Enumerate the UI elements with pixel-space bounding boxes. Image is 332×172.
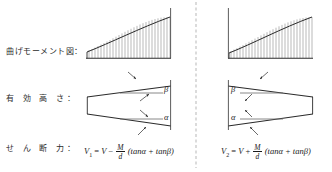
row-label-effective-depth: 有 効 高 さ： bbox=[6, 95, 78, 103]
row-label-bending-moment: 曲げモーメント図： bbox=[6, 48, 83, 56]
formula-left-equals: = bbox=[94, 146, 99, 156]
formula-right-denominator: d bbox=[253, 153, 261, 160]
formula-right-v: V bbox=[238, 146, 243, 156]
row-label-shear-force: せ ん 断 力： bbox=[6, 145, 78, 153]
right-panel bbox=[228, 8, 313, 135]
formula-right-equals: = bbox=[231, 146, 236, 156]
formula-left-numerator: M bbox=[116, 144, 124, 151]
formula-right-numerator: M bbox=[253, 144, 261, 151]
effective-depth-right bbox=[228, 72, 313, 135]
shear-formula-right: V2 = V + M d (tanα + tanβ) bbox=[221, 144, 311, 160]
shear-formula-left: V1 = V − M d (tanα + tanβ) bbox=[84, 144, 174, 160]
diagram-figure: β α β α 曲げモーメント図： 有 効 高 さ： せ ん 断 力： V1 =… bbox=[0, 0, 332, 172]
bmd-left bbox=[86, 8, 171, 58]
angle-label-alpha-left: α bbox=[164, 112, 169, 122]
formula-left-v: V bbox=[101, 146, 106, 156]
angle-label-alpha-right: α bbox=[231, 112, 236, 122]
formula-right-fraction: M d bbox=[253, 144, 261, 160]
formula-left-fraction: M d bbox=[116, 144, 124, 160]
formula-right-sign: + bbox=[245, 146, 250, 156]
angle-label-beta-left: β bbox=[163, 84, 169, 94]
effective-depth-left bbox=[87, 72, 171, 135]
formula-right-lhs-subscript: 2 bbox=[226, 152, 229, 158]
angle-label-beta-right: β bbox=[230, 84, 236, 94]
formula-left-denominator: d bbox=[116, 153, 124, 160]
formula-left-sign: − bbox=[108, 146, 113, 156]
formula-right-trig: (tanα + tanβ) bbox=[265, 146, 311, 156]
formula-left-trig: (tanα + tanβ) bbox=[128, 146, 174, 156]
bmd-right bbox=[228, 8, 313, 58]
left-panel bbox=[86, 8, 171, 135]
formula-left-lhs-subscript: 1 bbox=[89, 152, 92, 158]
